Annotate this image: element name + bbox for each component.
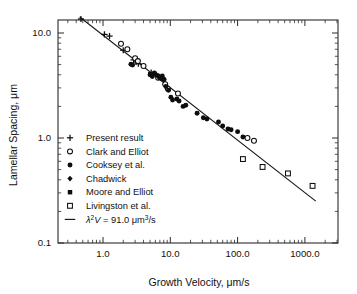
legend-marker-open-square — [68, 203, 73, 208]
legend-label: Present result — [86, 133, 144, 143]
data-point — [177, 99, 182, 104]
legend-label: Cooksey et al. — [86, 160, 145, 170]
x-tick-label: 1000.0 — [290, 248, 319, 259]
legend-marker-filled-square — [68, 190, 72, 194]
data-point — [216, 120, 221, 125]
data-point — [286, 171, 291, 176]
data-point — [160, 77, 164, 81]
data-point — [260, 165, 265, 170]
y-tick-label: 1.0 — [38, 132, 51, 143]
x-tick-label: 1.0 — [96, 248, 109, 259]
legend-label: Livingston et al. — [86, 201, 151, 211]
legend-label: Clark and Elliot — [86, 147, 149, 157]
y-tick-label: 0.1 — [38, 237, 51, 248]
data-point — [204, 116, 209, 121]
x-tick-label: 100.0 — [226, 248, 250, 259]
data-point — [240, 135, 245, 140]
data-point — [166, 88, 171, 93]
data-point — [310, 183, 315, 188]
legend-marker-filled-circle — [68, 163, 73, 168]
data-point — [220, 124, 225, 129]
data-point — [141, 64, 146, 69]
data-point — [235, 129, 240, 134]
data-point — [175, 91, 180, 96]
data-point — [130, 63, 135, 68]
data-point — [251, 138, 256, 143]
data-point — [119, 41, 124, 46]
figure-container: 1.010.0100.01000.0 10.01.00.1 Growth Vel… — [0, 0, 357, 294]
x-axis-title: Growth Velocity, μm/s — [149, 276, 250, 288]
legend-label: Moore and Elliot — [86, 187, 154, 197]
lamellar-spacing-vs-growth-velocity-chart: 1.010.0100.01000.0 10.01.00.1 Growth Vel… — [0, 0, 357, 294]
x-tick-label: 10.0 — [161, 248, 180, 259]
data-point — [135, 59, 140, 64]
legend-marker-open-circle — [68, 149, 73, 154]
legend-label: Chadwick — [86, 174, 127, 184]
data-point — [229, 127, 234, 132]
data-point — [241, 157, 246, 162]
data-point — [183, 103, 188, 108]
y-axis-title: Lamellar Spacing, μm — [7, 84, 19, 186]
data-point — [195, 111, 200, 116]
data-point — [170, 98, 175, 103]
data-point — [125, 47, 130, 52]
y-tick-label: 10.0 — [32, 27, 51, 38]
data-point — [245, 136, 250, 141]
